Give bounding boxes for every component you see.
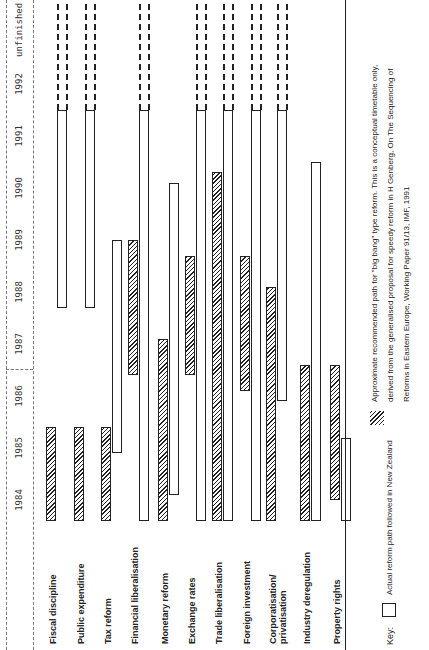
year-tick-label: 1985 [14, 423, 24, 473]
actual-path-bar [57, 110, 67, 308]
recommended-path-bar [74, 427, 84, 521]
header-dashed-rule [33, 0, 34, 650]
header-divider [6, 369, 33, 370]
year-tick-label: 1986 [14, 371, 24, 421]
unfinished-continuation [260, 4, 262, 110]
key-recommended-line1: Approximate recommended path for "big ba… [370, 65, 379, 402]
year-tick-label: 1987 [14, 319, 24, 369]
row-label: Trade liberalisation [214, 524, 224, 644]
recommended-path-bar [128, 240, 138, 375]
key-label: Key: [385, 627, 395, 645]
actual-path-bar [223, 110, 233, 521]
unfinished-continuation [286, 4, 288, 110]
key-actual-text: Actual reform path followed in New Zeala… [385, 440, 394, 595]
unfinished-continuation [148, 4, 150, 110]
recommended-path-bar [158, 339, 168, 521]
key-recommended-line3: Reforms in Eastern Europe, Working Paper… [402, 186, 411, 402]
actual-path-bar [311, 162, 321, 521]
unfinished-continuation [85, 4, 87, 110]
recommended-path-bar [266, 287, 276, 521]
unfinished-continuation [139, 4, 141, 110]
unfinished-continuation [277, 4, 279, 110]
recommended-path-bar [185, 256, 195, 376]
year-tick-label: 1990 [14, 163, 24, 213]
row-label: Tax reform [103, 524, 113, 644]
unfinished-continuation [57, 4, 59, 110]
recommended-path-bar [330, 365, 340, 500]
year-tick-label: unfinished [14, 7, 24, 57]
row-label: Corporatisation/ privatisation [268, 524, 288, 644]
hatched-bar-key-swatch [370, 411, 384, 425]
actual-path-bar [169, 183, 179, 495]
row-label: Foreign investment [242, 524, 252, 644]
recommended-path-bar [300, 365, 310, 521]
year-tick-label: 1984 [14, 475, 24, 525]
unfinished-continuation [196, 4, 198, 110]
actual-path-bar [196, 110, 206, 521]
row-label: Exchange rates [187, 524, 197, 644]
row-label: Industry deregulation [302, 524, 312, 644]
actual-path-bar [277, 110, 287, 401]
year-tick-label: 1992 [14, 59, 24, 109]
unfinished-continuation [232, 4, 234, 110]
actual-path-bar [139, 110, 149, 521]
recommended-path-bar [212, 172, 222, 520]
unfinished-continuation [94, 4, 96, 110]
recommended-path-bar [46, 427, 56, 521]
chart-baseline [345, 0, 346, 650]
actual-path-bar [251, 110, 261, 521]
row-label: Financial liberalisation [130, 524, 140, 644]
actual-path-bar [112, 240, 122, 453]
row-label: Fiscal discipline [48, 524, 58, 644]
actual-path-bar [341, 438, 351, 521]
row-label: Public expenditure [76, 524, 86, 644]
recommended-path-bar [101, 427, 111, 521]
unfinished-continuation [223, 4, 225, 110]
actual-path-bar [85, 110, 95, 308]
top-dashed-rule [6, 0, 7, 650]
rotated-chart-page: 198419851986198719881989199019911992unfi… [0, 0, 429, 650]
unfinished-continuation [251, 4, 253, 110]
row-label: Monetary reform [160, 524, 170, 644]
open-bar-key-swatch [382, 603, 396, 617]
recommended-path-bar [240, 256, 250, 391]
unfinished-continuation [205, 4, 207, 110]
unfinished-continuation [66, 4, 68, 110]
year-tick-label: 1991 [14, 111, 24, 161]
row-label: Property rights [332, 524, 342, 644]
year-tick-label: 1989 [14, 215, 24, 265]
year-tick-label: 1988 [14, 267, 24, 317]
key-recommended-line2: derived from the generalised proposal fo… [386, 69, 395, 402]
